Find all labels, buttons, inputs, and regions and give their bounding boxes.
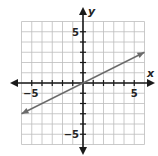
- y-tick-label-neg5: −5: [64, 129, 79, 140]
- x-tick-label-neg5: −5: [23, 88, 38, 99]
- y-axis-label: y: [88, 5, 96, 18]
- y-tick-label-5: 5: [72, 27, 79, 38]
- x-axis-label: x: [146, 67, 155, 80]
- coordinate-plane: x y −5 5 5 −5: [0, 0, 158, 156]
- x-tick-label-5: 5: [131, 88, 138, 99]
